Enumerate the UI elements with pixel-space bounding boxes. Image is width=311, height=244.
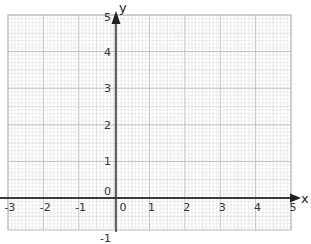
x-tick-label: 2 [183,201,190,214]
y-tick-label: -1 [100,232,111,244]
x-tick-labels: -3-2-1012345 [4,201,296,214]
y-tick-label: 0 [104,185,111,198]
x-tick-label: -1 [75,201,86,214]
y-tick-label: 3 [104,82,111,95]
x-tick-label: 4 [254,201,261,214]
x-axis-label: x [301,191,309,206]
x-tick-label: -3 [4,201,15,214]
y-tick-label: 2 [104,119,111,132]
y-tick-label: 4 [104,46,111,59]
x-tick-label: 3 [219,201,226,214]
x-tick-label: -2 [40,201,51,214]
y-tick-label: 1 [104,155,111,168]
y-axis-label: y [119,0,127,15]
y-tick-label: 5 [104,11,111,24]
x-tick-label: 0 [120,201,127,214]
x-tick-label: 5 [289,201,296,214]
x-tick-label: 1 [148,201,155,214]
coordinate-grid: x y -3-2-1012345 -1012345 [0,0,311,244]
